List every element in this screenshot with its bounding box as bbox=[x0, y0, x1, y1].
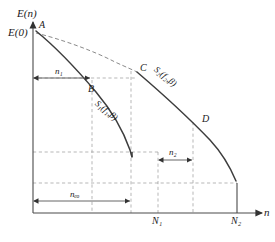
point-label-a: A bbox=[39, 20, 45, 30]
segment-label-n1: n₁ bbox=[55, 67, 63, 76]
segment-label-neq: nₑₒ bbox=[70, 190, 79, 199]
measure-arrows bbox=[34, 78, 192, 201]
point-label-c: C bbox=[140, 63, 147, 73]
point-label-b: B bbox=[88, 84, 94, 94]
x-tick-label-n2: N₂ bbox=[231, 216, 241, 226]
x-axis-label: n bbox=[264, 207, 270, 218]
point-label-d: D bbox=[202, 114, 209, 124]
axes bbox=[33, 22, 262, 213]
x-tick-label-n1: N₁ bbox=[152, 216, 162, 226]
envelope-curve bbox=[36, 33, 137, 72]
curve-s1 bbox=[36, 31, 132, 157]
guide-lines bbox=[33, 71, 237, 213]
energy-vs-n-diagram bbox=[0, 0, 275, 242]
figure-container: E(n) E(0) n A B C D n₁ n₂ nₑₒ N₁ N₂ S₁(f… bbox=[0, 0, 275, 242]
y-intercept-label: E(0) bbox=[8, 27, 28, 38]
segment-label-n2: n₂ bbox=[169, 148, 177, 157]
y-axis-label: E(n) bbox=[17, 8, 37, 19]
curve-s2 bbox=[137, 72, 236, 181]
